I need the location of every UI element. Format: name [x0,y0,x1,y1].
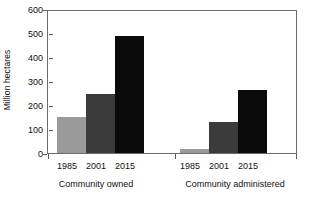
bar-community-owned-2015 [115,36,144,153]
plot-area [47,10,297,154]
y-axis-inner-tick-200 [49,106,53,107]
y-axis-title-text: Million hectares [2,50,12,111]
y-tick-label-400: 400 [28,54,43,63]
y-tick-label-500: 500 [28,30,43,39]
y-axis-outer-tick-0 [43,154,47,155]
bar-community-owned-1985 [57,117,86,153]
bar-chart: Million hectares 600 500 400 300 200 100… [0,0,315,203]
y-axis-inner-tick-400 [49,58,53,59]
bar-community-administered-1985 [180,149,209,153]
y-tick-label-100: 100 [28,126,43,135]
bar-community-administered-2001 [209,122,238,153]
x-axis-tick-left [48,154,49,159]
x-axis-tick-middle [175,154,176,159]
group-caption-community-administered: Community administered [165,179,305,189]
y-axis-inner-tick-300 [49,82,53,83]
y-tick-label-600: 600 [28,6,43,15]
y-axis-inner-tick-500 [49,34,53,35]
y-axis-title: Million hectares [0,0,14,160]
y-axis-tick-labels: 600 500 400 300 200 100 0 [14,0,46,203]
bar-community-administered-2015 [238,90,267,153]
y-axis-inner-tick-100 [49,130,53,131]
x-axis-tick-right [296,154,297,159]
y-tick-label-300: 300 [28,78,43,87]
group-caption-community-owned: Community owned [42,179,150,189]
x-tick-label-owned-2015: 2015 [105,161,145,171]
x-tick-label-administered-2015: 2015 [228,161,268,171]
y-tick-label-200: 200 [28,102,43,111]
bar-community-owned-2001 [86,94,115,153]
